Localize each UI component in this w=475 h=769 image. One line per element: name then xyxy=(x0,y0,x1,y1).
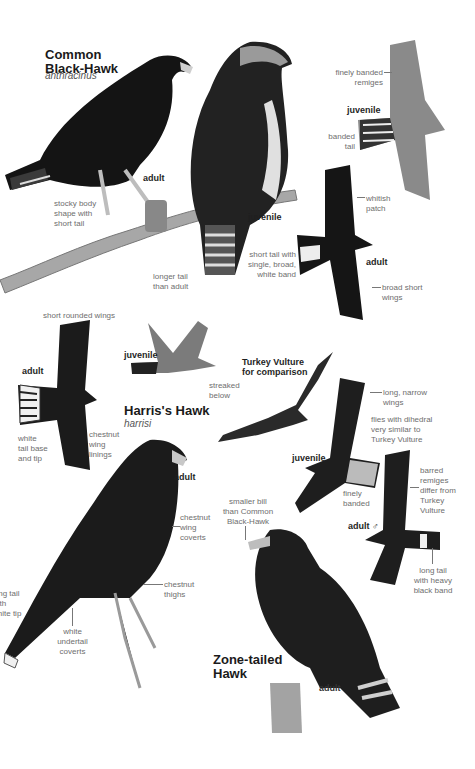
common-black-hawk-title-line1: Common xyxy=(45,48,118,62)
harris-hawk-title: Harris's Hawk xyxy=(124,404,209,418)
common-black-hawk-adult-flight-illustration xyxy=(295,165,380,325)
zone-tailed-hawk-adult-perched-label: adult xyxy=(319,683,341,693)
chestnut-wing-linings-note: chestnut wing linings xyxy=(89,430,119,460)
leader-line xyxy=(357,197,365,198)
harris-hawk-adult-flight-label: adult xyxy=(22,366,44,376)
zone-tailed-hawk-title: Zone-tailed Hawk xyxy=(213,653,282,681)
common-black-hawk-adult-perched-label: adult xyxy=(143,173,165,183)
common-black-hawk-juvenile-flight-label: juvenile xyxy=(347,105,381,115)
leader-line xyxy=(370,392,382,393)
white-tail-base-note: white tail base and tip xyxy=(18,434,48,464)
harris-hawk-adult-perched-illustration xyxy=(0,438,195,688)
leader-line xyxy=(432,548,433,564)
short-tail-note: short tail with single, broad, white ban… xyxy=(240,250,296,280)
longer-tail-note: longer tail than adult xyxy=(153,272,188,292)
common-black-hawk-juvenile-perched-illustration xyxy=(180,40,300,280)
zone-tailed-hawk-adult-perched-illustration xyxy=(240,528,405,733)
whitish-patch-note: whitish patch xyxy=(366,194,390,214)
leader-line xyxy=(72,608,73,626)
zone-tailed-hawk-adult-male-flight-label: adult ♂ xyxy=(348,521,379,531)
leader-line xyxy=(143,584,163,585)
zone-tailed-hawk-juvenile-flight-label: juvenile xyxy=(292,453,326,463)
leader-line xyxy=(372,287,381,288)
long-narrow-wings-note: long, narrow wings xyxy=(383,388,427,408)
chestnut-thighs-note: chestnut thighs xyxy=(164,580,194,600)
streaked-below-note: streaked below xyxy=(209,381,240,401)
leader-line xyxy=(410,487,419,488)
short-rounded-wings-note: short rounded wings xyxy=(43,311,115,321)
finely-banded-remiges-note: finely banded remiges xyxy=(325,68,383,88)
common-black-hawk-juvenile-perched-label: juvenile xyxy=(248,212,282,222)
harris-hawk-adult-perched-label: adult xyxy=(174,472,196,482)
stocky-body-note: stocky body shape with short tail xyxy=(54,199,96,229)
barred-remiges-note: barred remiges differ from Turkey Vultur… xyxy=(420,466,456,516)
leader-line xyxy=(384,72,392,73)
harris-hawk-juvenile-flight-label: juvenile xyxy=(124,350,158,360)
leader-line xyxy=(245,526,246,540)
dihedral-note: flies with dihedral very similar to Turk… xyxy=(371,415,432,445)
common-black-hawk-adult-flight-label: adult xyxy=(366,257,388,267)
leader-line xyxy=(172,526,180,527)
turkey-vulture-title: Turkey Vulture for comparison xyxy=(242,357,308,377)
harris-hawk-scientific-name: harrisi xyxy=(124,418,151,429)
common-black-hawk-scientific-name: anthracinus xyxy=(45,70,97,81)
banded-tail-note: banded tail xyxy=(320,132,355,152)
finely-banded-note: finely banded xyxy=(343,489,370,509)
chestnut-wing-coverts-note: chestnut wing coverts xyxy=(180,513,210,543)
long-tail-white-tip-note: long tail with white tip xyxy=(0,589,21,619)
smaller-bill-note: smaller bill than Common Black-Hawk xyxy=(220,497,276,527)
long-tail-black-band-note: long tail with heavy black band xyxy=(413,566,453,596)
broad-short-wings-note: broad short wings xyxy=(382,283,422,303)
white-undertail-coverts-note: white undertail coverts xyxy=(55,627,90,657)
